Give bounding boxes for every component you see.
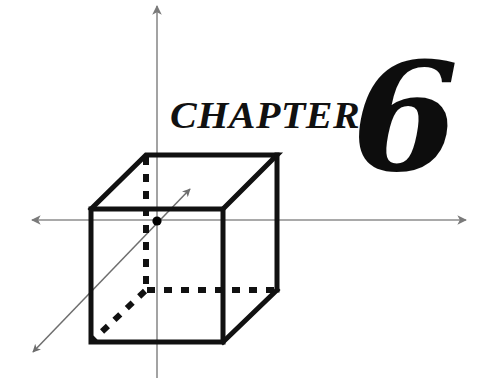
hidden-edge-back-bottom-left-diagonal — [92, 291, 145, 341]
chapter-opener-page: CHAPTER 6 — [0, 0, 497, 378]
origin-dot — [152, 216, 161, 225]
chapter-number: 6 — [352, 42, 458, 192]
chapter-word: CHAPTER — [170, 97, 360, 135]
depth-axis — [33, 189, 190, 352]
cube-edge-bottom-right-diagonal — [223, 290, 277, 342]
cube-top-face-back-edges — [91, 155, 277, 209]
